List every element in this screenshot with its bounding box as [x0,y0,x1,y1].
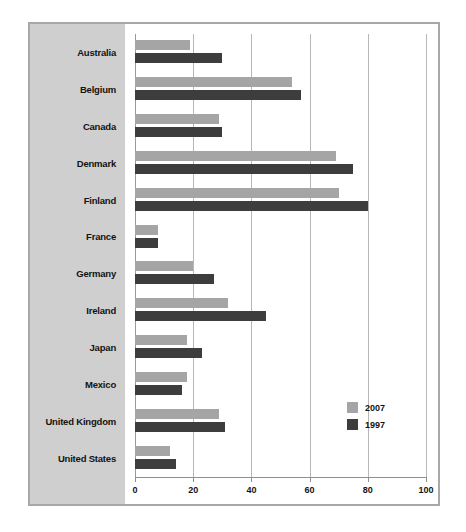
bar-2007-denmark [135,151,336,161]
legend-label: 2007 [365,403,385,413]
category-label: France [30,219,125,256]
bar-1997-japan [135,348,202,358]
bar-1997-germany [135,274,214,284]
legend-swatch-2007 [347,402,358,413]
bar-1997-ireland [135,311,266,321]
bar-2007-france [135,225,158,235]
bar-1997-finland [135,201,368,211]
bar-1997-canada [135,127,222,137]
bar-1997-mexico [135,385,182,395]
x-tick-60 [310,477,311,482]
bar-2007-germany [135,261,193,271]
bar-2007-finland [135,188,339,198]
x-tick-label: 40 [246,485,256,495]
category-label: Japan [30,329,125,366]
x-tick-80 [368,477,369,482]
bar-2007-mexico [135,372,187,382]
bar-row [135,440,426,477]
legend-entry: 2007 [347,402,385,413]
category-label: Canada [30,108,125,145]
bar-1997-united-states [135,459,176,469]
category-label: Denmark [30,145,125,182]
bar-row [135,34,426,71]
bar-2007-belgium [135,77,292,87]
x-tick-0 [135,477,136,482]
x-axis-line [135,477,427,478]
category-label: Germany [30,255,125,292]
category-label: United Kingdom [30,403,125,440]
bar-row [135,366,426,403]
x-tick-40 [251,477,252,482]
bar-1997-belgium [135,90,301,100]
bar-row [135,255,426,292]
bar-2007-australia [135,40,190,50]
bar-row [135,71,426,108]
category-axis-labels: AustraliaBelgiumCanadaDenmarkFinlandFran… [30,34,125,477]
bar-row [135,329,426,366]
legend: 20071997 [347,402,385,436]
bar-1997-australia [135,53,222,63]
x-tick-label: 0 [132,485,137,495]
bar-row [135,219,426,256]
bar-row [135,182,426,219]
bar-2007-united-kingdom [135,409,219,419]
bar-2007-japan [135,335,187,345]
bar-1997-denmark [135,164,353,174]
bar-2007-ireland [135,298,228,308]
x-tick-100 [426,477,427,482]
category-label: United States [30,440,125,477]
x-tick-label: 100 [418,485,433,495]
plot-area: 020406080100 20071997 [125,24,438,504]
category-label: Belgium [30,71,125,108]
category-label: Finland [30,182,125,219]
legend-swatch-1997 [347,419,358,430]
bar-chart: AustraliaBelgiumCanadaDenmarkFinlandFran… [28,22,440,506]
bar-row [135,145,426,182]
category-label: Australia [30,34,125,71]
bar-row [135,108,426,145]
bar-row [135,292,426,329]
bar-2007-united-states [135,446,170,456]
legend-label: 1997 [365,420,385,430]
bar-2007-canada [135,114,219,124]
x-tick-label: 60 [305,485,315,495]
gridline-100 [426,34,427,477]
bar-1997-united-kingdom [135,422,225,432]
category-label: Ireland [30,292,125,329]
bar-1997-france [135,238,158,248]
x-tick-label: 20 [188,485,198,495]
category-label: Mexico [30,366,125,403]
x-tick-label: 80 [363,485,373,495]
x-tick-20 [193,477,194,482]
legend-entry: 1997 [347,419,385,430]
